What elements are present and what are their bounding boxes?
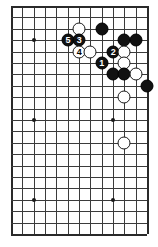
grid-line-horizontal: [11, 223, 147, 224]
stone-white[interactable]: [84, 45, 97, 58]
grid-line-horizontal: [11, 17, 147, 18]
go-diagram-root: 53421: [0, 0, 158, 247]
move-number-label: 5: [65, 36, 70, 45]
star-point: [32, 118, 36, 122]
grid-line-horizontal: [11, 86, 147, 87]
grid-line-horizontal: [11, 131, 147, 132]
move-number-label: 2: [111, 47, 116, 56]
grid-line-vertical: [147, 6, 149, 234]
stone-white[interactable]: [118, 136, 131, 149]
stone-black[interactable]: [140, 79, 153, 92]
grid-line-horizontal: [11, 177, 147, 178]
stone-white[interactable]: [118, 91, 131, 104]
grid-line-horizontal: [11, 109, 147, 110]
grid-line-horizontal: [11, 166, 147, 167]
star-point: [111, 118, 115, 122]
grid-line-horizontal: [11, 234, 147, 236]
move-number-label: 4: [77, 47, 82, 56]
star-point: [111, 198, 115, 202]
stone-black[interactable]: [95, 22, 108, 35]
grid-line-horizontal: [11, 188, 147, 189]
grid-line-horizontal: [11, 154, 147, 155]
stone-black[interactable]: [129, 34, 142, 47]
star-point: [32, 198, 36, 202]
go-board[interactable]: 53421: [0, 0, 158, 247]
move-number-label: 3: [77, 36, 82, 45]
move-number-label: 1: [99, 59, 104, 68]
stone-white[interactable]: [129, 68, 142, 81]
star-point: [32, 38, 36, 42]
grid-line-horizontal: [11, 211, 147, 212]
stone-black-move-1[interactable]: 1: [95, 57, 108, 70]
grid-line-horizontal: [11, 6, 147, 8]
